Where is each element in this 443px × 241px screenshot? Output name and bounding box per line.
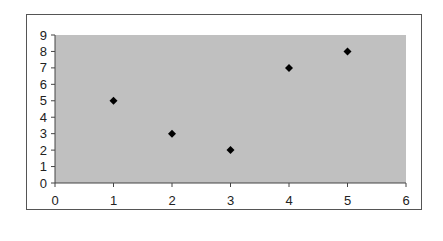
x-tick-label: 0 — [51, 193, 58, 208]
y-tick-label: 8 — [40, 44, 47, 59]
plot-area — [55, 35, 406, 183]
x-tick-label: 1 — [110, 193, 117, 208]
y-tick-label: 5 — [40, 93, 47, 108]
x-tick-label: 2 — [168, 193, 175, 208]
y-tick-label: 2 — [40, 143, 47, 158]
y-tick-label: 9 — [40, 28, 47, 43]
x-tick-label: 4 — [285, 193, 292, 208]
x-tick-label: 5 — [344, 193, 351, 208]
y-tick-label: 4 — [40, 110, 47, 125]
x-tick-label: 3 — [227, 193, 234, 208]
x-tick-label: 6 — [402, 193, 409, 208]
y-tick-label: 1 — [40, 159, 47, 174]
scatter-chart: 0123456789 0123456 — [0, 0, 443, 241]
y-tick-label: 6 — [40, 77, 47, 92]
y-tick-label: 7 — [40, 60, 47, 75]
y-tick-label: 0 — [40, 176, 47, 191]
y-tick-label: 3 — [40, 126, 47, 141]
y-axis: 0123456789 — [40, 28, 55, 191]
x-axis: 0123456 — [51, 183, 409, 208]
